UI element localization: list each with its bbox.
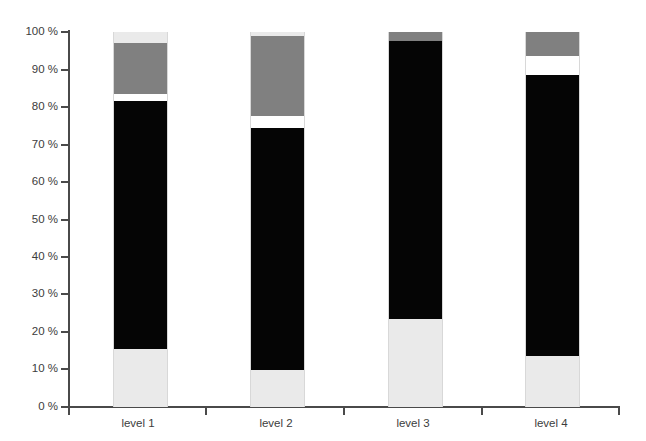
y-axis-label-20: 20 %: [10, 325, 58, 337]
bar-level-3-segment-light-gray: [388, 319, 443, 407]
y-axis-tick-0: [61, 406, 68, 408]
y-axis-tick-30: [61, 293, 68, 295]
y-axis-tick-60: [61, 181, 68, 183]
bar-level-4: [525, 32, 580, 407]
x-axis-tick-1: [205, 408, 207, 415]
bar-level-1-segment-light-gray: [113, 349, 168, 407]
x-axis-tick-start: [68, 408, 70, 415]
bar-level-4-segment-light-gray: [525, 356, 580, 407]
y-axis-tick-20: [61, 331, 68, 333]
y-axis-label-70: 70 %: [10, 138, 58, 150]
x-axis-label-level-4: level 4: [501, 417, 601, 429]
y-axis-tick-100: [61, 31, 68, 33]
y-axis-tick-80: [61, 106, 68, 108]
y-axis-tick-10: [61, 368, 68, 370]
bar-level-2-segment-gray: [250, 36, 305, 117]
bar-level-2-segment-light-gray-top: [250, 32, 305, 36]
bar-level-1-segment-white: [113, 94, 168, 102]
y-axis-tick-90: [61, 69, 68, 71]
bar-level-4-segment-black: [525, 75, 580, 356]
x-axis-tick-3: [481, 408, 483, 415]
y-axis-label-100: 100 %: [10, 25, 58, 37]
stacked-bar-chart: 0 % 10 % 20 % 30 % 40 % 50 % 60 % 70 % 8…: [0, 0, 646, 441]
x-axis-tick-2: [343, 408, 345, 415]
bar-level-1-segment-gray: [113, 43, 168, 94]
bar-level-1: [113, 32, 168, 407]
y-axis-line: [68, 30, 70, 408]
bar-level-2-segment-light-gray: [250, 370, 305, 408]
bar-level-1-segment-black: [113, 101, 168, 349]
bar-level-4-segment-gray: [525, 32, 580, 56]
y-axis-label-0: 0 %: [10, 400, 58, 412]
bar-level-3-segment-gray: [388, 32, 443, 41]
x-axis-tick-end: [618, 408, 620, 415]
y-axis-tick-40: [61, 256, 68, 258]
y-axis-label-80: 80 %: [10, 100, 58, 112]
bar-level-3: [388, 32, 443, 407]
y-axis-label-10: 10 %: [10, 362, 58, 374]
y-axis-label-60: 60 %: [10, 175, 58, 187]
bar-level-2-segment-white: [250, 116, 305, 127]
x-axis-label-level-1: level 1: [88, 417, 188, 429]
x-axis-label-level-2: level 2: [226, 417, 326, 429]
y-axis-label-50: 50 %: [10, 213, 58, 225]
bar-level-4-segment-white: [525, 56, 580, 75]
y-axis-tick-70: [61, 144, 68, 146]
y-axis-label-40: 40 %: [10, 250, 58, 262]
bar-level-2-segment-black: [250, 128, 305, 370]
x-axis-label-level-3: level 3: [363, 417, 463, 429]
bar-level-1-segment-light-gray-top: [113, 32, 168, 43]
y-axis-label-30: 30 %: [10, 287, 58, 299]
bar-level-2: [250, 32, 305, 407]
bar-level-3-segment-black: [388, 41, 443, 319]
y-axis-tick-50: [61, 219, 68, 221]
y-axis-label-90: 90 %: [10, 63, 58, 75]
